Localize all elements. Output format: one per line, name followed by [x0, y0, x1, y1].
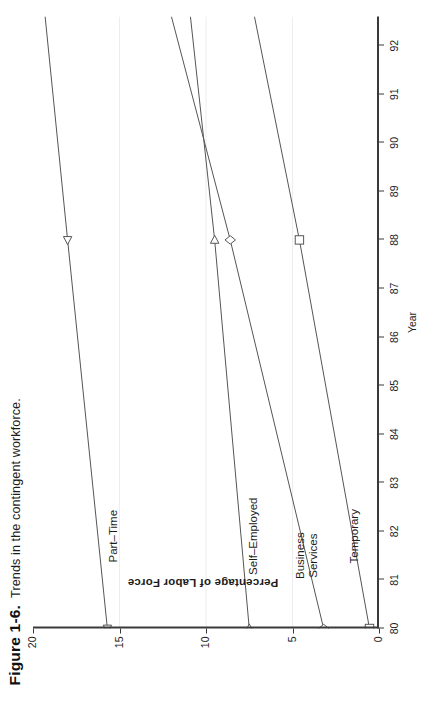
x-tick-label: 86 [388, 324, 400, 350]
figure-page: Figure 1-6.Trends in the contingent work… [0, 0, 440, 701]
x-tick [379, 384, 384, 385]
x-tick-label: 91 [388, 81, 400, 107]
data-point-marker-triangle-right [210, 235, 218, 243]
series-line-self-employed [190, 16, 249, 628]
x-tick [379, 287, 384, 288]
x-tick [379, 190, 384, 191]
x-tick-label: 87 [388, 275, 400, 301]
plot-area [33, 16, 379, 628]
x-tick [379, 336, 384, 337]
y-tick [33, 628, 34, 633]
y-tick-label: 20 [26, 636, 38, 658]
series-label-part-time: Part–Time [107, 491, 120, 581]
y-tick [206, 628, 207, 633]
x-tick [379, 238, 384, 239]
figure-number: Figure 1-6. [6, 604, 23, 685]
x-axis-line [377, 16, 379, 628]
y-tick-label: 5 [286, 636, 298, 658]
x-tick-label: 82 [388, 518, 400, 544]
line-chart: 80818283848586878889909192 05101520 Part… [33, 16, 379, 628]
y-tick [379, 628, 380, 633]
figure-caption: Figure 1-6.Trends in the contingent work… [6, 45, 28, 685]
x-tick [379, 530, 384, 531]
series-label-temporary: Temporary [348, 491, 361, 581]
series-label-self-employed: Self–Employed [247, 491, 260, 581]
y-tick [120, 628, 121, 633]
y-tick-label: 10 [199, 636, 211, 658]
y-tick-label: 15 [113, 636, 125, 658]
x-tick [379, 433, 384, 434]
data-series-layer [33, 16, 379, 628]
x-tick-label: 88 [388, 226, 400, 252]
x-tick [379, 578, 384, 579]
y-axis-label: Percentage of Labor Force [30, 576, 376, 588]
series-line-part-time [45, 16, 107, 628]
x-tick [379, 481, 384, 482]
figure-caption-text: Trends in the contingent workforce. [9, 398, 23, 598]
x-axis-label: Year [406, 16, 418, 628]
x-tick-label: 89 [388, 178, 400, 204]
data-point-marker-diamond [225, 235, 236, 243]
x-tick-label: 81 [388, 566, 400, 592]
data-point-marker-square [295, 235, 303, 243]
x-tick-label: 90 [388, 129, 400, 155]
y-tick-label: 0 [372, 636, 384, 658]
x-tick-label: 80 [388, 615, 400, 641]
x-tick [379, 44, 384, 45]
x-tick-label: 92 [388, 32, 400, 58]
x-tick-label: 85 [388, 372, 400, 398]
x-tick [379, 141, 384, 142]
y-tick [293, 628, 294, 633]
x-tick-label: 84 [388, 421, 400, 447]
x-tick [379, 93, 384, 94]
data-point-marker-triangle-left [63, 236, 71, 244]
x-tick-label: 83 [388, 469, 400, 495]
rotated-figure-canvas: Figure 1-6.Trends in the contingent work… [0, 0, 440, 701]
